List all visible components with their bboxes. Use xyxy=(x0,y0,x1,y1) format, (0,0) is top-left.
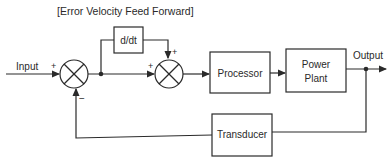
transducer-label: Transducer xyxy=(217,129,268,140)
feedback-arrow xyxy=(76,89,212,138)
derivative-branch-line xyxy=(101,40,114,74)
derivative-output-arrow xyxy=(143,40,168,58)
sum1-minus-sign: − xyxy=(79,93,85,104)
sum2-plus-top-sign: + xyxy=(172,47,177,57)
processor-label: Processor xyxy=(217,68,263,79)
diagram-title: [Error Velocity Feed Forward] xyxy=(57,5,194,17)
sum1-plus-sign: + xyxy=(51,61,56,71)
block-diagram: [Error Velocity Feed Forward] Input + − … xyxy=(0,0,392,165)
summing-junction-2 xyxy=(155,60,183,88)
power-plant-label-line2: Plant xyxy=(305,73,328,84)
derivative-label: d/dt xyxy=(120,35,137,46)
summing-junction-1 xyxy=(60,60,88,88)
power-plant-block xyxy=(286,49,346,92)
sum2-plus-left-sign: + xyxy=(148,61,153,71)
power-plant-label-line1: Power xyxy=(302,59,331,70)
output-label: Output xyxy=(353,50,383,61)
input-label: Input xyxy=(16,61,38,72)
